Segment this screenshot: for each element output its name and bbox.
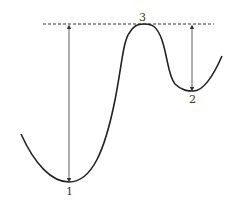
label-maximum-3: 3 xyxy=(139,11,146,24)
label-minimum-2: 2 xyxy=(189,93,196,106)
energy-diagram: 1 2 3 xyxy=(0,0,234,204)
label-minimum-1: 1 xyxy=(66,185,73,198)
